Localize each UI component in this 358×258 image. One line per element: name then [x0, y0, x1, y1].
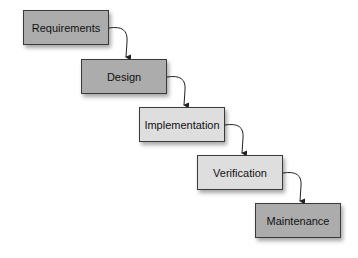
waterfall-diagram: Requirements Design Implementation Verif…	[0, 0, 358, 258]
stage-implementation: Implementation	[139, 107, 225, 142]
arrow-requirements-to-design	[109, 28, 127, 57]
stage-verification: Verification	[197, 155, 283, 190]
stage-label: Maintenance	[267, 215, 330, 227]
stage-design: Design	[81, 59, 167, 94]
arrow-implementation-to-verification	[225, 125, 243, 153]
arrow-verification-to-maintenance	[283, 173, 301, 201]
stage-label: Verification	[213, 167, 267, 179]
stage-maintenance: Maintenance	[255, 203, 341, 238]
stage-label: Design	[107, 71, 141, 83]
stage-label: Requirements	[32, 22, 100, 34]
stage-requirements: Requirements	[23, 10, 109, 45]
stage-label: Implementation	[144, 119, 219, 131]
arrow-design-to-implementation	[167, 77, 185, 105]
